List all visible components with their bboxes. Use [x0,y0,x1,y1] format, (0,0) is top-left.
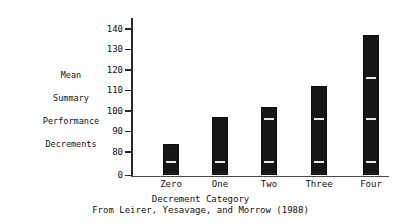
x-tick-label-four: Four [331,179,401,189]
bar-one [212,117,228,175]
y-tick-0 [125,175,132,177]
bar-internal-marker [215,161,225,163]
bar-internal-marker [264,161,274,163]
bar-zero [163,144,179,176]
y-tick-120 [125,69,132,71]
bar-three [311,86,327,175]
bar-chart-figure: Mean Summary Performance Decrements 1401… [0,0,401,224]
y-axis-line [131,18,133,177]
y-tick-label-130: 130 [85,45,123,54]
bar-four [363,35,379,175]
plot-area: 14013012011010090800 ZeroOneTwoThreeFour [131,18,389,177]
bar-internal-marker [166,161,176,163]
y-tick-label-110: 110 [85,86,123,95]
y-axis-title-line-3: Performance [28,116,114,128]
source-annotation: From Leirer, Yesavage, and Morrow (1988) [0,205,401,215]
bar-two [261,107,277,176]
bar-internal-marker [314,118,324,120]
bar-internal-marker [264,118,274,120]
y-tick-110 [125,90,132,92]
y-tick-label-90: 90 [85,127,123,136]
bar-internal-marker [314,161,324,163]
bar-internal-marker [366,118,376,120]
x-axis-line [131,176,389,178]
y-tick-label-0: 0 [85,171,123,180]
y-tick-130 [125,49,132,51]
y-tick-label-120: 120 [85,66,123,75]
y-tick-90 [125,131,132,133]
bar-internal-marker [366,161,376,163]
y-tick-80 [125,151,132,153]
y-tick-label-100: 100 [85,107,123,116]
y-tick-label-80: 80 [85,148,123,157]
y-tick-140 [125,28,132,30]
y-tick-100 [125,110,132,112]
bar-internal-marker [366,77,376,79]
y-tick-label-140: 140 [85,25,123,34]
x-axis-title: Decrement Category [0,194,401,204]
